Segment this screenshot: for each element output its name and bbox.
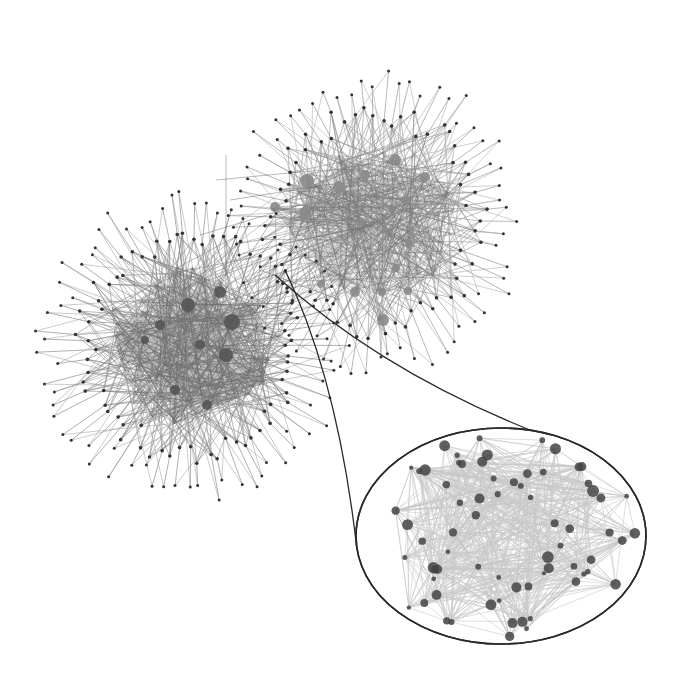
inset-node — [420, 599, 428, 607]
node — [335, 320, 339, 324]
leaf-node — [227, 214, 230, 217]
node — [269, 256, 273, 260]
node — [263, 409, 267, 413]
inset-node — [507, 618, 517, 628]
edge — [187, 401, 242, 484]
leaf-node — [506, 265, 509, 268]
node — [467, 173, 471, 177]
leaf-node — [399, 346, 402, 349]
node — [86, 339, 90, 343]
leaf-node — [498, 139, 501, 142]
edge — [179, 192, 183, 234]
edge — [53, 391, 85, 405]
edge — [47, 313, 88, 322]
node — [354, 113, 358, 117]
leaf-node — [52, 404, 55, 407]
leaf-node — [262, 305, 265, 308]
leaf-node — [177, 190, 180, 193]
edge — [142, 228, 155, 257]
node — [74, 333, 78, 337]
node — [148, 455, 152, 459]
node — [131, 250, 135, 254]
edge — [323, 92, 331, 112]
leaf-node — [106, 212, 109, 215]
leaf-node — [205, 202, 208, 205]
node — [286, 360, 290, 364]
hub-node — [214, 286, 226, 298]
edge — [202, 203, 206, 245]
inset-node — [439, 440, 450, 451]
inset-node — [511, 582, 521, 592]
edge — [401, 82, 410, 117]
edge — [451, 297, 475, 321]
leaf-node — [321, 91, 324, 94]
inset-node — [443, 617, 450, 624]
leaf-node — [274, 118, 277, 121]
node — [263, 224, 267, 228]
node — [288, 253, 292, 257]
leaf-node — [61, 433, 64, 436]
leaf-node — [216, 212, 219, 215]
inset-node — [618, 536, 627, 545]
hub-node — [357, 218, 365, 226]
inset-node — [431, 576, 436, 581]
inset-node — [474, 493, 484, 503]
node — [343, 120, 347, 124]
leaf-node — [481, 139, 484, 142]
node — [485, 207, 489, 211]
edge — [349, 112, 414, 164]
node — [268, 422, 272, 426]
leaf-node — [447, 97, 450, 100]
node — [283, 343, 287, 347]
leaf-node — [170, 194, 173, 197]
hub-node — [360, 170, 370, 180]
hub-node — [141, 336, 149, 344]
node — [478, 219, 482, 223]
leaf-node — [280, 322, 283, 325]
inset-node — [551, 519, 559, 527]
node — [139, 446, 143, 450]
leaf-node — [332, 369, 335, 372]
hub-node — [202, 400, 212, 410]
node — [291, 299, 295, 303]
inset-node — [496, 575, 501, 580]
inset-node — [475, 564, 481, 570]
node — [304, 132, 308, 136]
hub-node — [224, 314, 240, 330]
inset-node — [587, 485, 599, 497]
node — [102, 389, 106, 393]
node — [261, 238, 265, 242]
leaf-node — [316, 334, 319, 337]
node — [195, 462, 199, 466]
node — [320, 140, 324, 144]
leaf-node — [438, 86, 441, 89]
inset-node — [495, 491, 501, 497]
edge — [279, 318, 297, 336]
hub-node — [350, 287, 360, 297]
edge — [287, 393, 311, 405]
inset-node — [596, 493, 605, 502]
inset-node — [517, 617, 527, 627]
leaf-node — [285, 430, 288, 433]
edge — [464, 296, 484, 313]
leaf-node — [161, 207, 164, 210]
node — [308, 290, 312, 294]
node — [470, 262, 474, 266]
edge — [89, 417, 118, 445]
leaf-node — [246, 177, 249, 180]
node — [116, 415, 120, 419]
edge — [366, 338, 368, 372]
node — [269, 215, 273, 219]
node — [92, 281, 96, 285]
leaf-node — [489, 162, 492, 165]
inset-node — [486, 599, 497, 610]
leaf-node — [238, 253, 241, 256]
hub-node — [402, 196, 410, 204]
inset-node — [585, 569, 590, 574]
node — [287, 182, 291, 186]
node — [286, 146, 290, 150]
node — [222, 235, 226, 239]
leaf-node — [277, 248, 280, 251]
leaf-node — [46, 311, 49, 314]
inset-node — [630, 528, 641, 539]
